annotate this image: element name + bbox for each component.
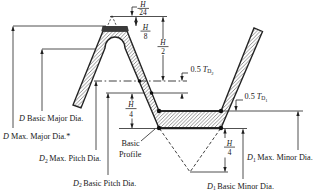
corner-dot bbox=[219, 109, 223, 113]
h8-numerator: H bbox=[142, 23, 149, 32]
background bbox=[0, 0, 322, 193]
h8-denominator: 8 bbox=[144, 32, 148, 41]
flank-pitch-dot bbox=[138, 79, 142, 83]
h4-upper-denominator: 4 bbox=[129, 110, 133, 119]
corner-dot bbox=[157, 126, 161, 130]
label-d-max-major-dia: DMax. Major Dia.* bbox=[2, 132, 70, 141]
h4-lower-numerator: H bbox=[226, 139, 233, 148]
diagram-canvas: H 24 H 8 H 2 H 4 H 4 0.5TD2 0.5TD1 Basic… bbox=[0, 0, 322, 193]
basic-profile-callout-line2: Profile bbox=[119, 150, 142, 159]
crest-flat-bar bbox=[101, 26, 129, 31]
corner-dot bbox=[219, 126, 223, 130]
h4-lower-denominator: 4 bbox=[228, 148, 232, 157]
thread-profile-figure: H 24 H 8 H 2 H 4 H 4 0.5TD2 0.5TD1 Basic… bbox=[0, 0, 322, 193]
h2-numerator: H bbox=[159, 38, 166, 47]
basic-profile-callout-line1: Basic bbox=[122, 139, 141, 148]
flank-basic-pitch-dot bbox=[150, 91, 154, 95]
label-d-basic-major-dia: DBasic Major Dia. bbox=[18, 114, 83, 123]
h2-denominator: 2 bbox=[161, 47, 165, 56]
h24-denominator: 24 bbox=[139, 8, 147, 17]
h4-upper-numerator: H bbox=[127, 100, 134, 109]
corner-dot bbox=[157, 109, 161, 113]
